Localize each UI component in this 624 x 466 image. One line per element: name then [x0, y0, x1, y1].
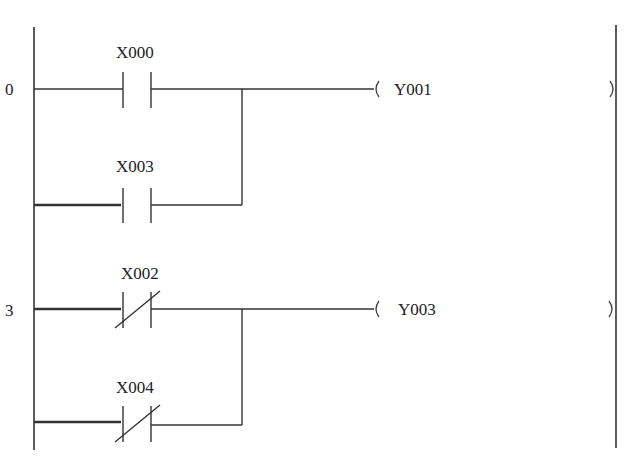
contact-x000: X000 — [34, 43, 242, 108]
contact-label: X003 — [116, 157, 154, 176]
coil-y003: Y003 — [376, 300, 612, 319]
coil-label: Y003 — [398, 300, 436, 319]
ladder-diagram: 0 X000 X003 Y001 3 — [0, 0, 624, 466]
contact-label: X004 — [116, 378, 154, 397]
rung-3: 3 X002 X004 Y003 — [5, 264, 612, 442]
contact-x003: X003 — [34, 157, 242, 223]
coil-close-paren-icon — [609, 301, 612, 317]
contact-label: X002 — [121, 264, 159, 283]
rung-0: 0 X000 X003 Y001 — [5, 43, 613, 223]
contact-x004: X004 — [34, 378, 242, 442]
coil-open-paren-icon — [376, 301, 379, 317]
contact-label: X000 — [116, 43, 154, 62]
contact-x002: X002 — [34, 264, 242, 328]
coil-y001: Y001 — [376, 80, 613, 99]
step-number: 3 — [5, 301, 14, 320]
coil-open-paren-icon — [376, 81, 379, 97]
coil-label: Y001 — [394, 80, 432, 99]
step-number: 0 — [5, 80, 14, 99]
coil-close-paren-icon — [610, 81, 613, 97]
